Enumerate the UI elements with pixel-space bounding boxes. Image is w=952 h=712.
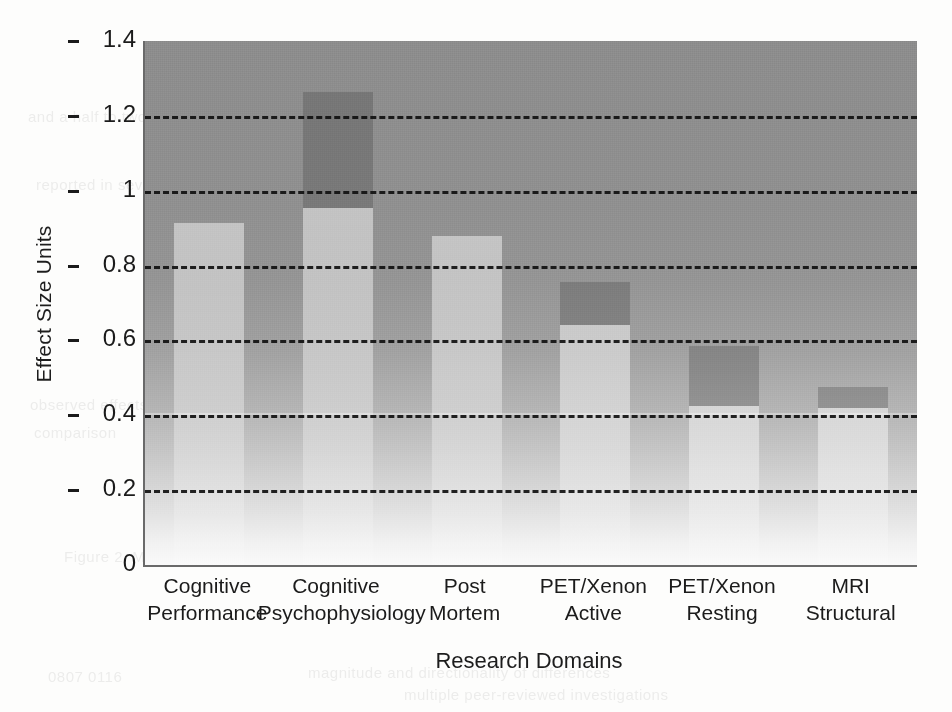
y-axis-tick-mark [68, 190, 79, 193]
bar [174, 41, 244, 565]
y-axis-tick-mark [68, 115, 79, 118]
y-axis-tick-label: 1.2 [76, 102, 136, 126]
bar-segment-dark [818, 387, 888, 408]
y-axis-tick-label: 1.4 [76, 27, 136, 51]
y-axis-tick-label: 0.2 [76, 476, 136, 500]
y-axis-tick-label: 0.6 [76, 326, 136, 350]
bar [303, 41, 373, 565]
y-axis-tick-mark [68, 265, 79, 268]
gridline [145, 340, 917, 343]
plot-area [143, 41, 917, 567]
y-axis-tick-label: 0.8 [76, 252, 136, 276]
bar [689, 41, 759, 565]
y-axis-tick-labels: 00.20.40.60.811.21.4 [64, 0, 136, 712]
bar-segment-light [818, 408, 888, 565]
y-axis-tick-label: 0.4 [76, 401, 136, 425]
bar-segment-light [689, 406, 759, 565]
y-axis-tick-mark [68, 40, 79, 43]
bar-segment-light [432, 236, 502, 565]
y-axis-tick-mark [68, 489, 79, 492]
bar-segment-light [303, 208, 373, 565]
x-axis-title: Research Domains [143, 648, 915, 674]
gridline [145, 116, 917, 119]
bar-segment-light [560, 325, 630, 565]
gridline [145, 415, 917, 418]
gridline [145, 191, 917, 194]
x-axis-tick-label-line: Structural [772, 599, 929, 626]
y-axis-tick-label: 0 [76, 551, 136, 575]
x-axis-tick-label: MRIStructural [772, 572, 929, 626]
bar [432, 41, 502, 565]
gridline [145, 266, 917, 269]
y-axis-tick-mark [68, 414, 79, 417]
effect-size-bar-chart: and a half to two timesthe same period, … [0, 0, 952, 712]
paper-scan-line [145, 413, 917, 415]
bleed-text: multiple peer-reviewed investigations [404, 686, 668, 703]
gridline [145, 490, 917, 493]
bar-segment-dark [689, 346, 759, 406]
y-axis-tick-mark [68, 339, 79, 342]
bar [560, 41, 630, 565]
x-axis-tick-label-line: MRI [772, 572, 929, 599]
y-axis-tick-label: 1 [76, 177, 136, 201]
bar-segment-dark [560, 282, 630, 325]
bar-segment-light [174, 223, 244, 565]
y-axis-title: Effect Size Units [32, 174, 56, 434]
bar [818, 41, 888, 565]
x-axis-tick-labels: CognitivePerformanceCognitivePsychophysi… [143, 572, 915, 638]
